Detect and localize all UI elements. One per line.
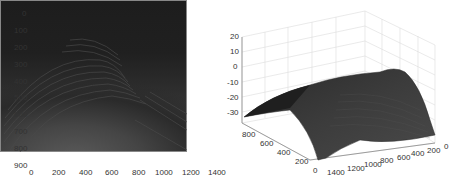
y-tick: 500 (14, 93, 27, 102)
x-tick: 200 (52, 168, 65, 177)
y-tick: 200 (14, 43, 27, 52)
x-tick: 1400 (208, 168, 226, 177)
y-tick: 100 (14, 26, 27, 35)
z-tick: -30 (227, 108, 239, 117)
y-tick: 600 (14, 110, 27, 119)
y-tick: 0 (313, 166, 317, 175)
z-tick: 10 (230, 47, 239, 56)
z-tick: -20 (227, 93, 239, 102)
x-tick: 600 (105, 168, 118, 177)
y-tick: 400 (14, 77, 27, 86)
x-tick: 200 (427, 146, 440, 155)
x-tick: 0 (29, 168, 33, 177)
fringe-pattern (0, 0, 187, 152)
z-tick: -10 (227, 78, 239, 87)
y-tick: 800 (242, 130, 255, 139)
y-tick: 800 (14, 144, 27, 153)
y-tick: 300 (14, 60, 27, 69)
fringe-image (0, 0, 187, 152)
x-tick: 1200 (347, 164, 365, 173)
x-tick: 1200 (182, 168, 200, 177)
surface-plot-3d: 20 10 0 -10 -20 -30 800 600 400 200 0 14… (230, 0, 453, 186)
y-tick: 600 (260, 139, 273, 148)
z-tick: 0 (233, 62, 237, 71)
x-tick: 800 (132, 168, 145, 177)
x-tick: 400 (411, 149, 424, 158)
x-tick: 400 (79, 168, 92, 177)
x-tick: 600 (397, 153, 410, 162)
y-tick: 700 (14, 127, 27, 136)
y-tick: 0 (22, 9, 26, 18)
y-tick: 400 (277, 148, 290, 157)
surface-plot-canvas (230, 0, 453, 186)
fringe-image-plot: 0 100 200 300 400 500 600 700 800 900 0 … (0, 0, 225, 186)
z-tick: 20 (230, 32, 239, 41)
x-tick: 800 (380, 156, 393, 165)
y-tick: 900 (14, 161, 27, 170)
y-tick: 200 (295, 157, 308, 166)
x-tick: 0 (444, 142, 448, 151)
x-tick: 1000 (155, 168, 173, 177)
x-tick: 1400 (327, 168, 345, 177)
